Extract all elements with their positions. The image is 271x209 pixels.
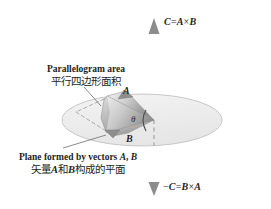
top-eq-c: C — [164, 16, 171, 27]
bottom-eq-c: C — [169, 181, 176, 192]
bottom-vector-equation: −C=B×A — [163, 181, 201, 193]
plane-callout-prefix: Plane formed by vectors — [19, 152, 120, 162]
plane-callout-cn-prefix: 矢量 — [31, 163, 51, 175]
bottom-eq-a: A — [194, 181, 201, 192]
plane-callout-cn-vec-a: A — [51, 164, 58, 175]
parallelogram-callout-english: Parallelogram area — [30, 64, 142, 75]
top-eq-b: B — [189, 16, 196, 27]
plane-callout-english: Plane formed by vectors A, B — [3, 152, 153, 163]
vector-a-label: A — [123, 85, 130, 97]
plane-callout-vec-b: B — [131, 152, 137, 162]
plane-callout: Plane formed by vectors A, B 矢量A和B构成的平面 — [3, 152, 153, 177]
diagram-canvas — [0, 0, 271, 209]
plane-callout-cn-vec-b: B — [68, 164, 75, 175]
top-vector-equation: C=A×B — [164, 16, 196, 28]
plane-callout-chinese: 矢量A和B构成的平面 — [3, 163, 153, 176]
vector-b-label: B — [126, 133, 133, 145]
plane-callout-cn-suffix: 构成的平面 — [75, 163, 125, 175]
top-eq-a: A — [177, 16, 184, 27]
angle-theta-label: θ — [131, 114, 135, 125]
cross-product-figure: C=A×B −C=B×A Parallelogram area 平行四边形面积 … — [0, 0, 271, 209]
plane-callout-cn-mid: 和 — [58, 163, 68, 175]
